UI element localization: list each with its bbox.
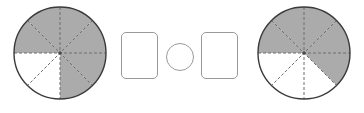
right-fraction-circle (252, 0, 356, 113)
right-circle-center-dot (302, 51, 306, 55)
left-fraction-circle-graphic (8, 0, 112, 113)
fraction-comparison-exercise (0, 0, 364, 113)
first-answer-box[interactable] (121, 32, 158, 79)
left-circle-center-dot (58, 51, 62, 55)
comparison-operator-circle[interactable] (166, 43, 194, 71)
right-fraction-circle-graphic (252, 0, 356, 113)
second-answer-box[interactable] (201, 32, 238, 79)
left-fraction-circle (8, 0, 112, 113)
